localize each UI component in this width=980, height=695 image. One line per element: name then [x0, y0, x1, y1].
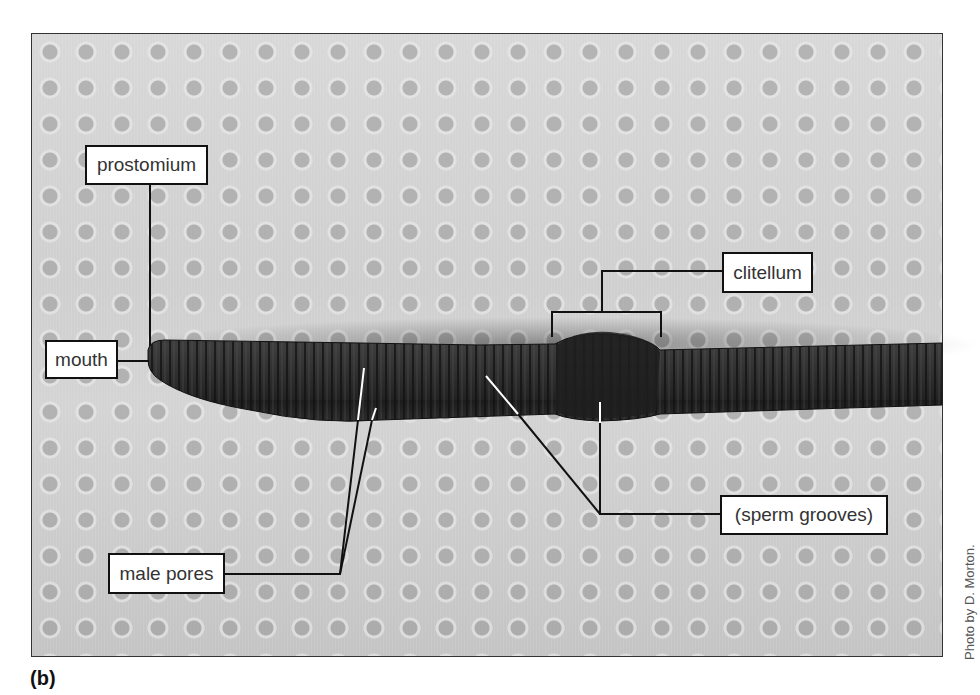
- label-clitellum: clitellum: [722, 252, 813, 293]
- photo-credit: Photo by D. Morton.: [962, 544, 977, 660]
- label-male-pores: male pores: [108, 553, 225, 594]
- sperm-grooves-leader-diagonal: [518, 414, 600, 514]
- label-sperm-grooves: (sperm grooves): [720, 495, 888, 535]
- label-mouth: mouth: [45, 340, 118, 379]
- male-pores-leader-1: [224, 420, 358, 574]
- clitellum-swelling: [556, 332, 660, 419]
- label-prostomium: prostomium: [85, 145, 208, 185]
- sperm-grooves-leader-vertical: [600, 423, 720, 514]
- panel-label: (b): [30, 667, 56, 690]
- worm-body: [148, 334, 942, 422]
- clitellum-leader-line: [602, 271, 722, 312]
